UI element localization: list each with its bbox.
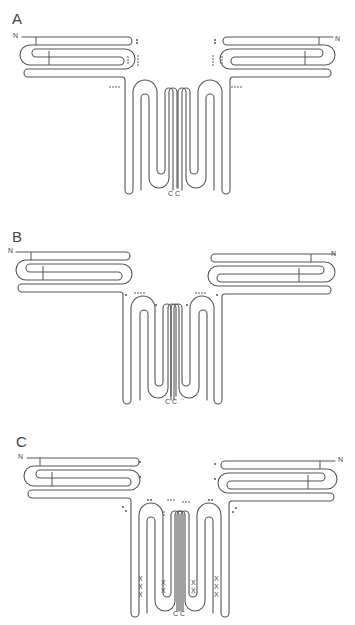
svg-text:X: X	[138, 591, 143, 598]
svg-text:X: X	[161, 579, 166, 586]
panel-c: C N N C C XXX XX XX XXX	[0, 425, 355, 625]
svg-text:X: X	[214, 583, 219, 590]
monomer-topology-diagram	[0, 210, 355, 415]
panel-a: A N N C C	[0, 0, 355, 200]
marker-dots	[109, 39, 242, 88]
panel-b: B N N C C	[0, 210, 355, 415]
svg-text:X: X	[191, 587, 196, 594]
svg-text:X: X	[191, 579, 196, 586]
svg-text:X: X	[214, 575, 219, 582]
svg-text:X: X	[161, 587, 166, 594]
svg-text:X: X	[138, 575, 143, 582]
svg-text:X: X	[214, 591, 219, 598]
monomer-topology-diagram	[0, 0, 355, 200]
svg-text:X: X	[138, 583, 143, 590]
monomer-topology-diagram: XXX XX XX XXX	[0, 425, 355, 625]
